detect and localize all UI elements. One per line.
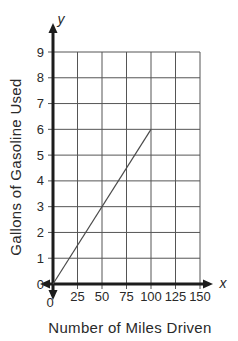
y-tick-label: 2 [37, 225, 44, 240]
chart: 01234567890255075100125150 Gallons of Ga… [0, 0, 238, 341]
x-axis-title: Number of Miles Driven [48, 319, 211, 336]
x-axis-symbol: x [220, 275, 227, 291]
y-tick-label: 7 [37, 96, 44, 111]
x-tick-label: 125 [165, 289, 187, 304]
y-tick-label: 3 [37, 199, 44, 214]
y-tick-label: 5 [37, 148, 44, 163]
x-tick-label: 25 [70, 289, 84, 304]
x-tick-label: 75 [119, 289, 133, 304]
x-tick-label: 150 [189, 289, 211, 304]
y-tick-label: 0 [37, 277, 44, 292]
x-tick-label: 0 [46, 295, 53, 310]
x-axis-right-arrow [203, 280, 213, 289]
y-axis-symbol: y [58, 11, 65, 27]
x-tick-label: 100 [140, 289, 162, 304]
plot-area: 01234567890255075100125150 [0, 0, 238, 341]
y-tick-label: 4 [37, 173, 44, 188]
y-tick-label: 8 [37, 70, 44, 85]
y-tick-label: 1 [37, 251, 44, 266]
y-axis-top-arrow [49, 23, 58, 33]
x-tick-label: 50 [95, 289, 109, 304]
y-tick-label: 6 [37, 122, 44, 137]
y-axis-title: Gallons of Gasoline Used [7, 78, 24, 255]
y-tick-label: 9 [37, 45, 44, 60]
